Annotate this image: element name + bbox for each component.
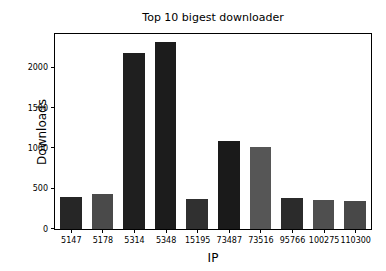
x-tick-label: 110300 <box>340 236 371 245</box>
chart-title: Top 10 bigest downloader <box>54 11 372 24</box>
y-tick-label: 2000 <box>28 63 48 72</box>
x-tick-label: 15195 <box>185 236 210 245</box>
x-tick-label: 5147 <box>61 236 81 245</box>
x-tick: 5178 <box>102 229 103 233</box>
bar <box>155 42 176 229</box>
bar <box>123 53 144 229</box>
x-tick: 95766 <box>292 229 293 233</box>
bar <box>92 194 113 229</box>
bar <box>60 197 81 229</box>
x-tick-label: 73487 <box>217 236 242 245</box>
y-tick-label: 500 <box>33 184 48 193</box>
x-tick: 5147 <box>71 229 72 233</box>
bar-chart-figure: Top 10 bigest downloader Downloads 05001… <box>0 0 386 271</box>
x-tick: 5314 <box>134 229 135 233</box>
bar <box>218 141 239 229</box>
bar <box>250 147 271 229</box>
bar <box>186 199 207 229</box>
x-tick-label: 95766 <box>280 236 305 245</box>
plot-area: Downloads 0500100015002000 5147517853145… <box>54 33 372 230</box>
x-tick-label: 73516 <box>248 236 273 245</box>
x-tick-label: 5348 <box>156 236 176 245</box>
x-tick: 5348 <box>166 229 167 233</box>
x-tick: 73516 <box>260 229 261 233</box>
bar <box>281 198 302 229</box>
bar <box>313 200 334 229</box>
x-tick: 15195 <box>197 229 198 233</box>
bar <box>344 201 365 229</box>
x-tick: 110300 <box>355 229 356 233</box>
bars-layer <box>55 34 371 229</box>
x-tick-label: 100275 <box>309 236 340 245</box>
y-tick-label: 1500 <box>28 103 48 112</box>
x-tick: 73487 <box>229 229 230 233</box>
x-axis-label: IP <box>54 251 372 265</box>
x-tick-label: 5314 <box>124 236 144 245</box>
y-tick-label: 1000 <box>28 143 48 152</box>
x-tick-label: 5178 <box>93 236 113 245</box>
y-tick-label: 0 <box>43 224 48 233</box>
x-tick: 100275 <box>324 229 325 233</box>
